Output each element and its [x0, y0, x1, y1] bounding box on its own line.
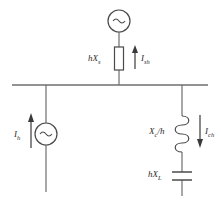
supply-impedance-box	[115, 47, 124, 70]
filter-inductor-label: Xc/h	[149, 127, 164, 138]
filter-capacitor-label-main: hX	[148, 169, 158, 179]
filter-inductor-coil-icon	[175, 116, 189, 152]
filter-capacitor-label-sub: L	[158, 174, 162, 181]
supply-current-arrow-head-icon	[132, 45, 138, 53]
filter-current-label-sub: ch	[208, 131, 214, 138]
supply-impedance-label-main: hX	[88, 53, 98, 63]
circuit-schematic-svg	[0, 0, 221, 201]
supply-current-label: Ish	[141, 54, 150, 65]
filter-current-label: Ich	[205, 127, 214, 138]
harmonic-current-arrow-head-icon	[28, 113, 34, 122]
filter-inductor-label-tail: /h	[157, 126, 164, 136]
circuit-diagram-canvas: hXs Ish Ih Xc/h Ich hXL	[0, 0, 221, 201]
harmonic-current-label: Ih	[14, 130, 20, 141]
harmonic-current-label-sub: h	[17, 134, 20, 141]
filter-capacitor-label: hXL	[148, 170, 162, 181]
supply-impedance-label: hXs	[88, 54, 101, 65]
supply-current-label-sub: sh	[144, 58, 150, 65]
filter-current-arrow-head-icon	[197, 139, 203, 148]
supply-impedance-label-sub: s	[98, 58, 101, 65]
